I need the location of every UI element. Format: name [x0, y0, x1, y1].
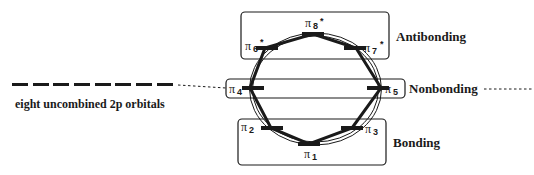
svg-text:8: 8 [313, 21, 318, 31]
svg-text:7: 7 [372, 46, 377, 56]
svg-text:π: π [245, 39, 251, 53]
nonbonding-label: Nonbonding [409, 81, 478, 96]
orbital-bar-pi2 [261, 126, 283, 130]
orbital-label-pi8: π 8 * [305, 16, 324, 31]
svg-text:1: 1 [312, 152, 317, 162]
frost-circle-diagram: π 8 * π 6 * π 7 * π 4 π 5 π 2 π 3 π 1 An… [0, 0, 534, 175]
uncombined-orbitals-dashes [12, 83, 173, 86]
uncombined-orbitals-caption: eight uncombined 2p orbitals [15, 97, 165, 111]
orbital-bar-pi8 [302, 32, 324, 36]
orbital-label-pi3: π 3 [365, 122, 378, 137]
svg-text:6: 6 [253, 44, 258, 54]
orbital-bar-pi7 [344, 46, 366, 50]
svg-text:3: 3 [373, 127, 378, 137]
orbital-bar-pi3 [341, 126, 363, 130]
orbital-label-pi1: π 1 [304, 147, 317, 162]
svg-text:π: π [364, 41, 370, 55]
orbital-bar-pi4 [242, 86, 264, 90]
svg-text:π: π [305, 16, 311, 30]
bonding-label: Bonding [393, 135, 440, 150]
orbital-label-pi7: π 7 * [364, 39, 384, 56]
svg-text:π: π [365, 122, 371, 136]
svg-text:4: 4 [237, 87, 242, 97]
left-dotted-guide [178, 85, 226, 88]
orbital-label-pi2: π 2 [241, 120, 254, 135]
svg-text:*: * [380, 39, 384, 49]
orbital-bar-pi1 [298, 142, 320, 146]
svg-text:*: * [320, 16, 324, 26]
orbital-label-pi4: π 4 [229, 82, 242, 97]
svg-text:*: * [260, 37, 264, 47]
orbital-label-pi5: π 5 [385, 82, 398, 97]
svg-text:π: π [229, 82, 235, 96]
svg-text:π: π [304, 147, 310, 161]
orbital-label-pi6: π 6 * [245, 37, 264, 54]
svg-text:5: 5 [393, 87, 398, 97]
svg-text:2: 2 [249, 125, 254, 135]
svg-text:π: π [241, 120, 247, 134]
antibonding-label: Antibonding [396, 29, 467, 44]
svg-text:π: π [385, 82, 391, 96]
